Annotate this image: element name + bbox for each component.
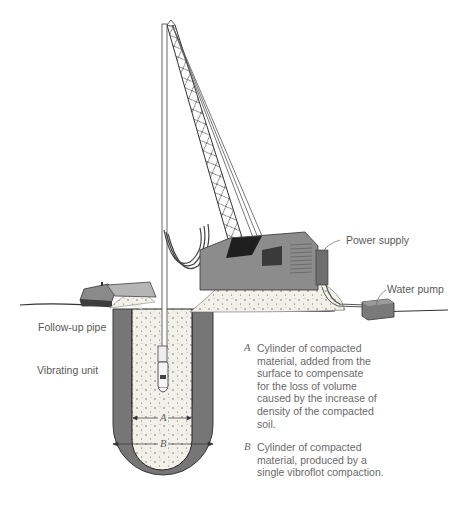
note-b: B Cylinder of compacted material, produc… <box>244 441 384 479</box>
note-a-text: Cylinder of compacted material, added fr… <box>257 342 377 430</box>
water-pump <box>362 299 394 320</box>
crane-boom <box>167 20 262 253</box>
follow-up-pipe-label: Follow-up pipe <box>38 321 106 333</box>
crane-housing <box>200 232 328 290</box>
note-b-text: Cylinder of compacted material, produced… <box>257 441 384 479</box>
note-a-key: A <box>244 342 250 355</box>
vibrating-unit-label: Vibrating unit <box>37 364 98 376</box>
vibrating-unit <box>158 362 168 392</box>
vibroflotation-diagram <box>0 0 452 510</box>
note-b-key: B <box>244 441 250 454</box>
note-a: A Cylinder of compacted material, added … <box>244 342 377 430</box>
dimension-a-label: A <box>158 412 168 424</box>
dimension-b-label: B <box>158 438 168 450</box>
power-supply-label: Power supply <box>346 234 409 246</box>
water-pump-label: Water pump <box>387 283 444 295</box>
